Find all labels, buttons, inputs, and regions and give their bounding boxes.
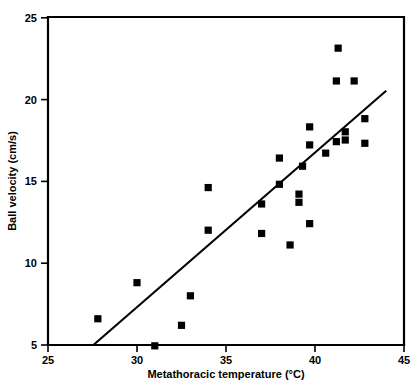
data-point <box>205 227 212 234</box>
data-point <box>258 200 265 207</box>
x-tick-label-30: 30 <box>131 354 143 366</box>
x-tick-label-40: 40 <box>309 354 321 366</box>
data-point <box>333 77 340 84</box>
data-point <box>133 279 140 286</box>
y-tick-label-10: 10 <box>25 257 37 269</box>
data-point <box>187 292 194 299</box>
data-point <box>351 77 358 84</box>
scatter-markers <box>94 45 368 350</box>
data-point <box>295 199 302 206</box>
data-point <box>295 191 302 198</box>
data-point <box>286 241 293 248</box>
data-point <box>333 138 340 145</box>
data-point <box>361 140 368 147</box>
data-point <box>205 184 212 191</box>
data-point <box>342 136 349 143</box>
data-point <box>342 128 349 135</box>
x-axis-tick-labels: 25 30 35 40 45 <box>42 354 410 366</box>
data-point <box>276 154 283 161</box>
chart-canvas: 5 10 15 20 25 25 30 35 40 45 Metathoraci… <box>0 0 415 382</box>
x-tick-label-35: 35 <box>220 354 232 366</box>
x-tick-label-25: 25 <box>42 354 54 366</box>
y-tick-label-15: 15 <box>25 175 37 187</box>
data-point <box>335 45 342 52</box>
data-point <box>258 230 265 237</box>
x-axis-title: Metathoracic temperature (°C) <box>147 368 305 380</box>
data-point <box>94 315 101 322</box>
y-tick-label-20: 20 <box>25 94 37 106</box>
data-point <box>306 141 313 148</box>
data-point <box>322 150 329 157</box>
data-point <box>361 115 368 122</box>
data-point <box>306 220 313 227</box>
data-point <box>151 342 158 349</box>
scatter-plot-figure: 5 10 15 20 25 25 30 35 40 45 Metathoraci… <box>0 0 415 382</box>
axis-frame-closure <box>48 17 404 345</box>
x-tick-label-45: 45 <box>398 354 410 366</box>
plot-frame <box>48 17 404 345</box>
data-point <box>276 181 283 188</box>
y-axis-title: Ball velocity (cm/s) <box>6 131 18 231</box>
data-point <box>306 123 313 130</box>
y-axis-tick-labels: 5 10 15 20 25 <box>25 12 37 351</box>
y-tick-label-5: 5 <box>31 339 37 351</box>
axis-spines <box>48 17 404 345</box>
data-point <box>299 163 306 170</box>
y-tick-label-25: 25 <box>25 12 37 24</box>
data-point <box>178 322 185 329</box>
